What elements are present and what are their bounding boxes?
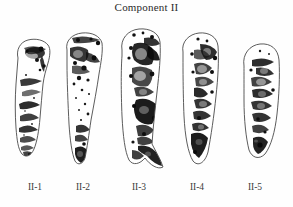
- specimen-label-ii-1: II-1: [22, 182, 48, 192]
- specimen-figure: Component II: [0, 0, 293, 207]
- specimen-label-ii-2: II-2: [70, 182, 96, 192]
- specimen-label-row: II-1 II-2 II-3 II-4 II-5: [0, 182, 293, 200]
- specimen-image-ii-2: [60, 30, 110, 170]
- page-title: Component II: [0, 1, 293, 13]
- specimen-plate: [0, 24, 293, 179]
- specimen-image-ii-1: [10, 36, 58, 162]
- specimen-image-ii-4: [174, 30, 226, 174]
- specimen-label-ii-5: II-5: [242, 182, 268, 192]
- specimen-image-ii-3: [114, 26, 170, 178]
- specimen-label-ii-4: II-4: [184, 182, 210, 192]
- specimen-image-ii-5: [234, 40, 286, 168]
- specimen-label-ii-3: II-3: [126, 182, 152, 192]
